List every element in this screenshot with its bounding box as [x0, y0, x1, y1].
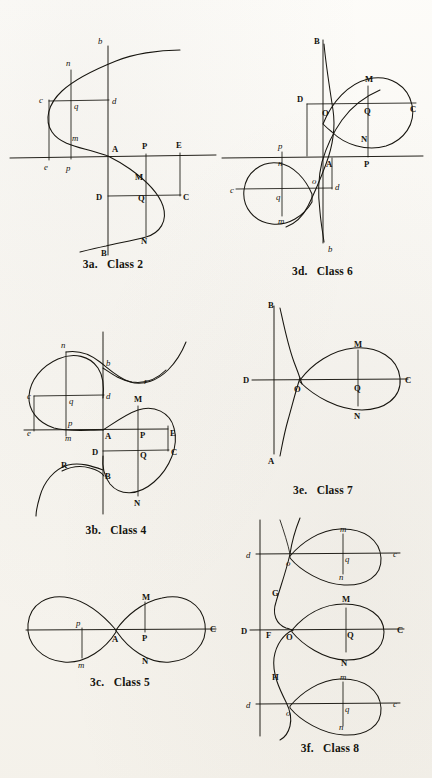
chord-DC [103, 450, 169, 451]
label-C: C [210, 624, 216, 634]
chord-cd [236, 188, 332, 189]
label-d-top: d [246, 550, 251, 560]
label-Q: Q [364, 106, 371, 116]
label-N: N [134, 498, 141, 508]
caption-3c: 3c. Class 5 [20, 676, 220, 688]
label-P: P [140, 430, 145, 440]
curve-branch-upper [280, 308, 302, 384]
label-D: D [241, 626, 247, 636]
label-R: R [61, 460, 68, 470]
label-n-bottom: n [339, 722, 344, 732]
label-P: P [142, 633, 147, 643]
label-A: A [105, 431, 112, 441]
label-m-bottom: m [340, 672, 346, 682]
label-q: q [276, 192, 281, 202]
label-M: M [135, 172, 143, 182]
label-Q: Q [354, 383, 361, 393]
label-c: c [230, 185, 234, 195]
label-H: H [272, 672, 279, 682]
label-N: N [142, 656, 149, 666]
caption-3b: 3b. Class 4 [16, 524, 216, 536]
curve-loop-middle [292, 604, 384, 660]
label-n: n [61, 340, 66, 350]
label-o-bottom: o [286, 708, 291, 718]
label-Q: Q [140, 450, 147, 460]
axis-horizontal-top [256, 553, 400, 554]
label-e: e [27, 428, 31, 438]
curve-top-serpentine [66, 342, 186, 383]
axis-horizontal [26, 629, 216, 630]
label-p: p [277, 141, 283, 151]
label-P: P [142, 141, 147, 151]
figure-3f: d o m q c n G M D F O Q C N H d o m q c … [228, 514, 418, 742]
label-A: A [112, 144, 119, 154]
label-C: C [397, 625, 403, 635]
label-m: m [72, 133, 78, 143]
axis-horizontal [222, 156, 423, 158]
axis-horizontal-middle [250, 629, 404, 630]
label-c-top: c [393, 549, 397, 559]
label-D: D [297, 94, 303, 104]
label-d: d [335, 182, 340, 192]
label-o-top: o [286, 558, 291, 568]
label-F: F [266, 630, 271, 640]
curve-branch-top-cross [280, 520, 290, 554]
figure-3a: b n c q d m e p A P E M D Q C N B [8, 28, 218, 258]
axis-horizontal [252, 379, 408, 380]
label-N: N [361, 134, 368, 144]
label-Q: Q [347, 630, 354, 640]
label-c-bottom: c [393, 699, 397, 709]
label-e: e [44, 162, 48, 172]
label-m: m [78, 660, 84, 670]
label-C: C [405, 375, 411, 385]
curve-branch-B [286, 44, 334, 227]
label-q-bottom: q [345, 704, 350, 714]
label-N: N [354, 411, 361, 421]
label-C: C [410, 104, 416, 114]
label-B: B [105, 471, 111, 481]
curve-branch-G [274, 518, 300, 630]
label-D: D [243, 375, 249, 385]
label-B: B [314, 36, 320, 46]
label-D: D [92, 447, 98, 457]
label-r: r [144, 376, 148, 386]
label-N: N [141, 236, 148, 246]
figure-3c: M p A P C m N [20, 578, 220, 678]
label-B: B [101, 248, 107, 258]
label-o: o [312, 176, 317, 186]
label-d: d [106, 391, 111, 401]
axis-horizontal-bottom [256, 703, 400, 704]
label-O: O [322, 108, 329, 118]
label-p: p [67, 418, 73, 428]
figure-3d: B D M O Q C N p A P c q o d m n b [220, 30, 425, 258]
chord-cd [49, 100, 109, 101]
label-M: M [134, 394, 142, 404]
label-A: A [268, 456, 275, 466]
label-A: A [326, 159, 333, 169]
label-q: q [69, 396, 74, 406]
label-C: C [171, 447, 177, 457]
curve-lower-serpentine [36, 464, 103, 516]
label-M: M [365, 74, 373, 84]
label-D: D [96, 192, 102, 202]
label-b: b [328, 244, 333, 254]
label-P: P [364, 159, 369, 169]
label-C: C [183, 192, 189, 202]
label-G: G [272, 588, 279, 598]
label-Q: Q [138, 193, 145, 203]
label-M: M [354, 339, 362, 349]
label-d: d [112, 96, 117, 106]
label-b: b [98, 36, 103, 46]
label-m-top: m [340, 524, 346, 534]
label-O: O [294, 384, 301, 394]
label-c-upper: c [27, 391, 31, 401]
axis-horizontal [10, 155, 216, 158]
label-p-lower: p [65, 163, 71, 173]
label-p-left: p [75, 618, 81, 628]
label-A: A [112, 634, 119, 644]
label-E: E [170, 428, 176, 438]
label-n: n [66, 58, 71, 68]
label-q: q [74, 101, 79, 111]
label-m: m [278, 216, 284, 226]
label-m: m [65, 433, 71, 443]
